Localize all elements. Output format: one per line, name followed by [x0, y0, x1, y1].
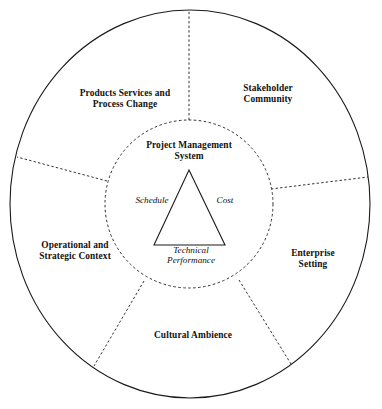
sector-label-cultural-ambience: Cultural Ambience — [154, 330, 232, 341]
sector-label-enterprise-setting: Enterprise Setting — [279, 248, 348, 269]
sector-label-products-services-and-process-change: Products Services and Process Change — [80, 88, 170, 109]
diagram-graphics — [0, 0, 382, 409]
core-label-project-management-system: Project Management System — [146, 140, 232, 161]
triangle-label-cost: Cost — [217, 195, 234, 205]
triangle-label-schedule: Schedule — [135, 195, 168, 205]
diagram-canvas: Products Services and Process Change Sta… — [0, 0, 382, 409]
sector-label-stakeholder-community: Stakeholder Community — [243, 83, 293, 104]
triangle-label-technical-performance: Technical Performance — [167, 245, 215, 266]
sector-label-operational-and-strategic-context: Operational and Strategic Context — [39, 240, 111, 261]
